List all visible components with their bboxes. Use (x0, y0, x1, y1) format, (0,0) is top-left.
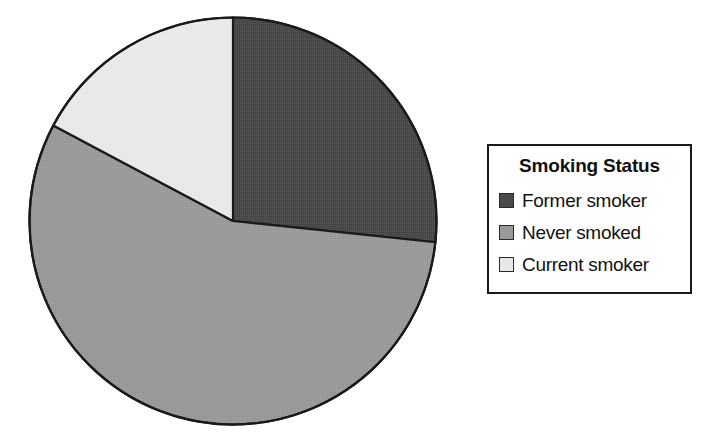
pie-slice-group (29, 18, 436, 425)
legend-item-label: Current smoker (522, 254, 649, 275)
pie-chart-plot-area (27, 16, 439, 426)
legend-title: Smoking Status (489, 155, 690, 177)
legend-swatch-icon-never-smoked (499, 225, 514, 240)
pie-chart-figure: Smoking Status Former smoker Never smoke… (0, 0, 723, 432)
legend-item-current-smoker[interactable]: Current smoker (489, 248, 690, 280)
legend-swatch-icon-former-smoker (499, 193, 514, 208)
legend-item-label: Former smoker (522, 190, 647, 211)
legend-item-never-smoked[interactable]: Never smoked (489, 216, 690, 248)
legend-swatch-icon-current-smoker (499, 257, 514, 272)
legend-item-former-smoker[interactable]: Former smoker (489, 184, 690, 216)
legend-box: Smoking Status Former smoker Never smoke… (487, 144, 692, 294)
pie-slice[interactable] (233, 18, 436, 243)
legend-item-label: Never smoked (522, 222, 641, 243)
pie-svg (27, 16, 439, 426)
